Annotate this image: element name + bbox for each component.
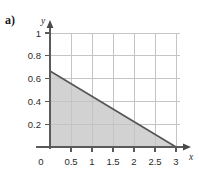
x-axis-ticks [71, 147, 176, 152]
y-axis-arrow [47, 20, 54, 28]
figure-panel: a) [0, 0, 199, 171]
y-tick-label-1: 0.4 [28, 96, 41, 107]
plot-area: 1 0.8 0.6 0.4 0.2 0 0.5 1 1.5 2 2.5 3 y … [0, 0, 199, 171]
x-tick-label-2: 1 [89, 156, 94, 167]
y-axis-label: y [40, 16, 46, 26]
y-tick-label-4: 1 [36, 28, 41, 39]
x-tick-label-5: 2.5 [148, 156, 161, 167]
origin-label: 0 [38, 156, 43, 167]
y-axis-ticks [45, 33, 50, 124]
x-tick-label-1: 0.5 [64, 156, 77, 167]
x-axis-label: x [188, 152, 194, 162]
y-tick-label-3: 0.8 [28, 50, 41, 61]
y-tick-label-0: 0.2 [28, 119, 41, 130]
x-axis-arrow [183, 144, 191, 151]
x-tick-label-3: 1.5 [106, 156, 119, 167]
x-tick-label-4: 2 [131, 156, 136, 167]
y-tick-label-2: 0.6 [28, 73, 41, 84]
x-tick-label-6: 3 [173, 156, 178, 167]
